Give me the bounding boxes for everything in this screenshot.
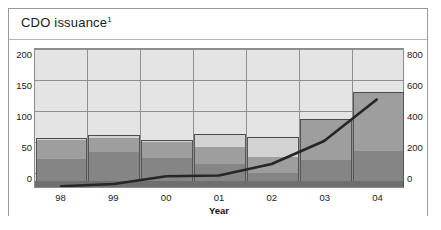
right-axis-tick: 800 bbox=[407, 49, 435, 60]
chart-body: 200 150 100 50 0 800 600 400 200 0 bbox=[9, 40, 427, 216]
x-axis-tick: 03 bbox=[298, 192, 351, 203]
issuance-line-series bbox=[35, 49, 403, 187]
right-axis-tick: 0 bbox=[407, 173, 435, 184]
panel-title-text: CDO issuance bbox=[21, 15, 107, 30]
left-axis-tick: 200 bbox=[9, 49, 32, 60]
panel-title: CDO issuance1 bbox=[21, 15, 112, 30]
left-axis-tick: 150 bbox=[9, 80, 32, 91]
x-axis-tick: 00 bbox=[140, 192, 193, 203]
panel-title-bar: CDO issuance1 bbox=[9, 9, 427, 40]
left-axis-tick: 50 bbox=[9, 142, 32, 153]
x-axis-title: Year bbox=[9, 205, 429, 216]
chart-panel: CDO issuance1 200 150 100 50 0 800 600 4… bbox=[8, 8, 428, 216]
x-axis-tick: 02 bbox=[245, 192, 298, 203]
issuance-line-path bbox=[61, 100, 376, 187]
x-axis-tick: 99 bbox=[87, 192, 140, 203]
right-axis-tick: 400 bbox=[407, 111, 435, 122]
panel-title-footnote: 1 bbox=[107, 15, 112, 24]
right-axis-tick: 600 bbox=[407, 80, 435, 91]
left-axis-tick: 100 bbox=[9, 111, 32, 122]
left-axis-tick: 0 bbox=[9, 173, 32, 184]
right-axis-tick: 200 bbox=[407, 142, 435, 153]
x-axis-tick: 04 bbox=[351, 192, 404, 203]
x-axis-tick: 98 bbox=[34, 192, 87, 203]
x-axis-tick: 01 bbox=[193, 192, 246, 203]
plot-area bbox=[34, 48, 404, 188]
